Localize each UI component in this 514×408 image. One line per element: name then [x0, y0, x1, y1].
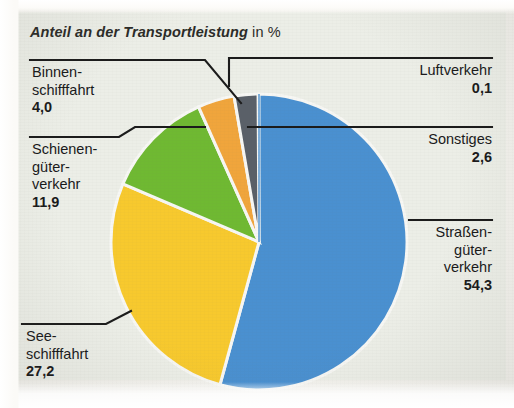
- label-luftverkehr: Luftverkehr 0,1: [419, 62, 492, 97]
- chart-title-emphasis: Anteil an der Transportleistung: [30, 24, 248, 40]
- label-schienengueterverkehr-line3: verkehr: [32, 176, 97, 194]
- label-strassengueterverkehr-line1: Straßen-: [436, 224, 492, 242]
- label-binnenschifffahrt-line1: Binnen-: [32, 64, 94, 82]
- label-binnenschifffahrt: Binnen- schifffahrt 4,0: [32, 64, 94, 117]
- label-sonstiges-line1: Sonstiges: [428, 131, 492, 149]
- label-binnenschifffahrt-value: 4,0: [32, 99, 94, 117]
- chart-title: Anteil an der Transportleistung in %: [30, 24, 281, 40]
- chart-title-unit: in %: [248, 24, 281, 40]
- label-sonstiges-value: 2,6: [428, 149, 492, 167]
- label-schienengueterverkehr-line2: güter-: [32, 159, 97, 177]
- leader-line-seeschifffahrt: [22, 311, 131, 324]
- label-seeschifffahrt-line2: schifffahrt: [26, 346, 88, 364]
- label-sonstiges: Sonstiges 2,6: [428, 131, 492, 166]
- label-strassengueterverkehr-value: 54,3: [436, 277, 492, 295]
- label-luftverkehr-line1: Luftverkehr: [419, 62, 492, 80]
- label-seeschifffahrt-line1: See-: [26, 328, 88, 346]
- label-seeschifffahrt: See- schifffahrt 27,2: [26, 328, 88, 381]
- label-seeschifffahrt-value: 27,2: [26, 363, 88, 381]
- label-strassengueterverkehr: Straßen- güter- verkehr 54,3: [436, 224, 492, 294]
- label-luftverkehr-value: 0,1: [419, 80, 492, 98]
- label-strassengueterverkehr-line2: güter-: [436, 242, 492, 260]
- scanned-page: Anteil an der Transportleistung in % Bin…: [0, 0, 514, 408]
- label-schienengueterverkehr-value: 11,9: [32, 194, 97, 212]
- label-schienengueterverkehr: Schienen- güter- verkehr 11,9: [32, 141, 97, 211]
- label-strassengueterverkehr-line3: verkehr: [436, 259, 492, 277]
- label-schienengueterverkehr-line1: Schienen-: [32, 141, 97, 159]
- label-binnenschifffahrt-line2: schifffahrt: [32, 82, 94, 100]
